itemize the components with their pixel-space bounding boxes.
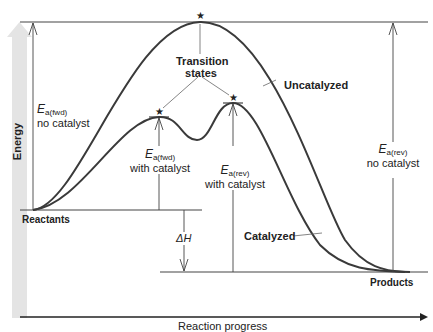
transition-state-marker-catalyzed-1: ★ (155, 106, 164, 117)
ea-caption: with catalyst (203, 179, 267, 190)
ea-symbol: E (145, 147, 153, 161)
transition-states-label: Transition states (176, 55, 226, 79)
ea-fwd-with-catalyst-label: Ea(fwd) with catalyst (130, 149, 190, 174)
catalyzed-leader (293, 233, 322, 236)
ea-caption: with catalyst (130, 163, 190, 174)
energy-axis-label: Energy (12, 112, 23, 172)
ea-subscript: a(rev) (387, 148, 408, 157)
transition-states-label-line2: states (176, 67, 226, 79)
transition-states-label-line1: Transition (176, 55, 226, 67)
reactants-label: Reactants (22, 214, 70, 225)
ea-rev-with-catalyst-label: Ea(rev) with catalyst (203, 165, 267, 190)
ea-fwd-no-catalyst-label: Ea(fwd) no catalyst (37, 104, 90, 129)
reaction-progress-label: Reaction progress (178, 321, 267, 332)
transition-states-leader-left (163, 77, 198, 108)
delta-h-label: ΔH (176, 233, 191, 244)
ea-subscript: a(fwd) (153, 153, 175, 162)
products-label: Products (370, 277, 413, 288)
ea-fwd-no-catalyst-arrow (29, 23, 37, 210)
transition-state-marker-catalyzed-2: ★ (229, 92, 238, 103)
uncatalyzed-label: Uncatalyzed (284, 80, 348, 91)
catalyzed-label: Catalyzed (244, 231, 295, 242)
ea-symbol: E (37, 102, 45, 116)
transition-states-leader-right (202, 77, 229, 95)
ea-caption: no catalyst (37, 118, 90, 129)
ea-symbol: E (221, 163, 229, 177)
transition-state-marker-uncatalyzed: ★ (196, 10, 205, 21)
ea-subscript: a(rev) (229, 169, 250, 178)
ea-symbol: E (379, 142, 387, 156)
ea-caption: no catalyst (363, 158, 423, 169)
ea-subscript: a(fwd) (45, 108, 67, 117)
ea-rev-no-catalyst-label: Ea(rev) no catalyst (363, 144, 423, 169)
